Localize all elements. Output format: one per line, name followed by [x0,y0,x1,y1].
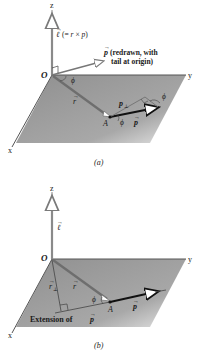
caption-a: (a) [94,158,104,167]
y-label: y [188,255,192,264]
phi-a: ϕ [92,295,96,304]
point-a [108,300,111,303]
p-perp-label: p [118,99,123,108]
ell-arrow: → [57,219,63,225]
angular-momentum-diagram: z y x O ℓ → (= r × p) p → (redrawn, with… [0,0,203,359]
phi-origin: ϕ [71,76,75,85]
p-redrawn-line1: (redrawn, with [110,48,159,57]
p-arrow: → [134,114,140,120]
p-arrow: → [133,298,139,304]
origin-label: O [41,253,48,263]
r-arrow: → [73,93,79,99]
a-label: A [102,119,108,128]
caption-b: (b) [94,341,104,350]
extension-label: Extension of [30,315,73,324]
phi-tip: ϕ [162,92,166,101]
r-perp-arrow: → [49,278,55,284]
point-a [108,115,111,118]
x-label: x [8,331,12,340]
y-label: y [188,71,192,80]
panel-b: z y x O ℓ → r ⊥ → r → ϕ A p → Extension … [8,184,192,350]
xy-plane [16,75,186,143]
r-arrow: → [73,278,79,284]
z-label: z [50,184,54,193]
ell-definition: (= r × p) [62,30,88,39]
z-label: z [50,1,54,10]
r-perp-sub: ⊥ [53,287,58,292]
panel-a: z y x O ℓ → (= r × p) p → (redrawn, with… [8,1,192,167]
phi-a: ϕ [120,118,124,127]
x-label: x [8,146,12,155]
p-redrawn-vector [52,62,100,75]
p-redrawn-line2: tail at origin) [111,57,154,66]
a-label: A [107,305,113,314]
origin-label: O [41,70,48,80]
p-perp-sub: ⊥ [124,104,129,109]
extension-p-arrow: → [90,311,96,317]
